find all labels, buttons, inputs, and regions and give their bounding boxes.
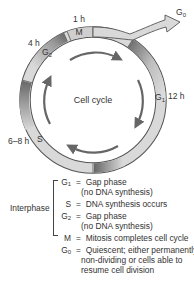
phase-g2-duration: 4 h: [28, 38, 40, 48]
legend-item-g0-line3: resume cell division: [81, 265, 154, 275]
interphase-label: Interphase: [10, 203, 50, 213]
phase-s-label: S: [37, 134, 43, 144]
phase-g1-duration: 12 h: [168, 91, 185, 101]
arrow-bottom-icon: [71, 146, 118, 153]
phase-m-duration: 1 h: [73, 14, 85, 24]
cell-cycle-diagram: Cell cycle M 1 h G1 12 h S 6–8 h G2 4 h …: [0, 0, 194, 180]
arrow-right-icon: [137, 80, 143, 124]
g0-label: G0: [176, 7, 187, 18]
arrow-top-icon: [70, 53, 118, 60]
phase-m-label: M: [75, 27, 82, 37]
arrow-left-icon: [44, 80, 50, 124]
legend: Interphase G1 = Gap phase (no DNA synthe…: [0, 177, 194, 293]
g0-exit-arrow: [93, 15, 180, 40]
legend-item-s: S = DNA synthesis occurs: [57, 199, 167, 209]
legend-item-g2-note: (no DNA synthesis): [81, 221, 153, 231]
legend-item-m: M = Mitosis completes cell cycle: [57, 233, 189, 243]
center-label: Cell cycle: [74, 95, 113, 105]
legend-item-g0-line2: non-dividing or cells able to: [81, 255, 183, 265]
phase-s-duration: 6–8 h: [8, 136, 30, 146]
legend-item-g1-note: (no DNA synthesis): [81, 187, 153, 197]
